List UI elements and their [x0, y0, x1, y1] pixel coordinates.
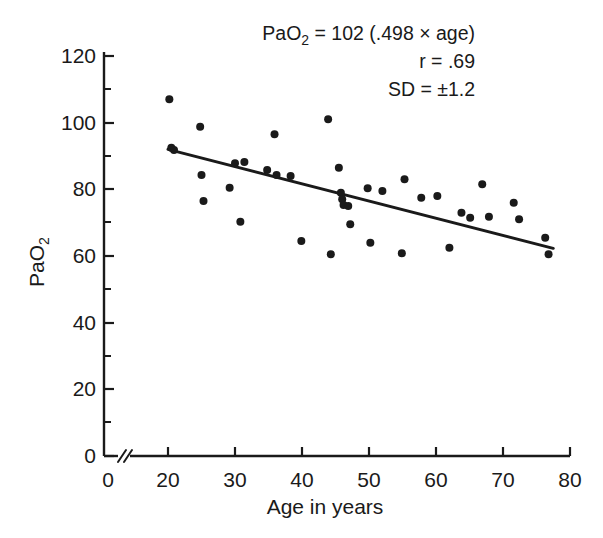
- y-axis-title-main: PaO: [25, 245, 48, 287]
- data-point: [445, 244, 453, 252]
- data-point: [401, 175, 409, 183]
- x-tick-label-50: 50: [357, 468, 380, 491]
- x-tick-label-80: 80: [558, 468, 581, 491]
- data-point: [200, 197, 208, 205]
- data-point: [417, 194, 425, 202]
- x-tick-label-40: 40: [290, 468, 313, 491]
- annotation-block: PaO2 = 102 (.498 × age) r = .69 SD = ±1.…: [262, 22, 475, 100]
- data-point: [324, 115, 332, 123]
- data-point: [240, 158, 248, 166]
- data-point: [236, 218, 244, 226]
- data-point: [344, 202, 352, 210]
- regression-line: [168, 149, 553, 248]
- y-tick-labels: 120 100 80 60 40 20 0: [61, 44, 96, 467]
- data-point: [337, 189, 345, 197]
- data-point: [515, 215, 523, 223]
- data-point: [226, 184, 234, 192]
- data-point: [510, 199, 518, 207]
- scatter-plot-figure: 120 100 80 60 40 20 0 0 20 30 40 50 60 7…: [0, 0, 603, 538]
- svg-text:PaO2: PaO2: [25, 237, 52, 287]
- x-tick-labels: 0 20 30 40 50 60 70 80: [102, 468, 582, 491]
- x-axis-title: Age in years: [267, 495, 384, 518]
- data-point: [273, 171, 281, 179]
- data-point: [366, 239, 374, 247]
- x-tick-label-20: 20: [156, 468, 179, 491]
- data-point: [263, 166, 271, 174]
- data-point: [346, 220, 354, 228]
- y-tick-label-100: 100: [61, 111, 96, 134]
- y-tick-label-20: 20: [73, 377, 96, 400]
- y-axis-title-sub: 2: [36, 237, 52, 245]
- y-axis-title: PaO2: [25, 237, 52, 287]
- annotation-r-value: r = .69: [419, 50, 475, 72]
- annotation-sd-value: SD = ±1.2: [388, 78, 475, 100]
- data-point: [165, 95, 173, 103]
- data-point: [541, 234, 549, 242]
- data-point: [398, 249, 406, 257]
- data-point: [196, 123, 204, 131]
- y-tick-label-0: 0: [84, 444, 96, 467]
- data-point: [231, 159, 239, 167]
- annotation-equation: PaO2 = 102 (.498 × age): [262, 22, 475, 48]
- data-point: [545, 250, 553, 258]
- x-tick-label-30: 30: [223, 468, 246, 491]
- data-point: [378, 187, 386, 195]
- y-tick-label-120: 120: [61, 44, 96, 67]
- data-point: [287, 172, 295, 180]
- data-point: [327, 250, 335, 258]
- data-point: [466, 214, 474, 222]
- x-tick-label-60: 60: [424, 468, 447, 491]
- data-point: [457, 209, 465, 217]
- y-axis-major-ticks: [104, 56, 114, 456]
- y-tick-label-80: 80: [73, 177, 96, 200]
- data-point: [364, 184, 372, 192]
- data-point: [335, 164, 343, 172]
- data-point: [198, 171, 206, 179]
- y-tick-label-40: 40: [73, 311, 96, 334]
- data-point: [485, 213, 493, 221]
- data-point: [297, 237, 305, 245]
- data-point: [478, 180, 486, 188]
- chart-canvas: 120 100 80 60 40 20 0 0 20 30 40 50 60 7…: [0, 0, 603, 538]
- y-tick-label-60: 60: [73, 244, 96, 267]
- data-point: [170, 146, 178, 154]
- data-point: [271, 130, 279, 138]
- x-tick-label-70: 70: [491, 468, 514, 491]
- x-tick-label-0: 0: [102, 468, 114, 491]
- data-point: [433, 192, 441, 200]
- x-axis-ticks: [168, 447, 570, 456]
